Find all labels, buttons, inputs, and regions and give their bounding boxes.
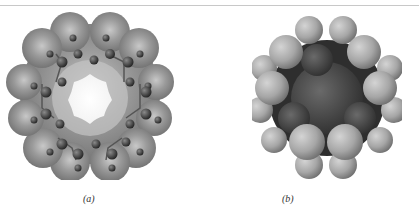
- caption-a: (a): [83, 193, 95, 204]
- top-rule: [0, 5, 419, 6]
- figure-panel-a: [6, 10, 174, 180]
- figure-panel-b: [252, 10, 402, 180]
- space-filling-model-image: [252, 10, 402, 180]
- caption-b: (b): [282, 193, 294, 204]
- molecular-surface-image: [6, 10, 174, 180]
